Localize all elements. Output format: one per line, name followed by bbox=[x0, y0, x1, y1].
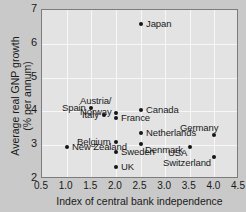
data-point-label: Netherlands bbox=[146, 128, 196, 138]
x-axis-tick-label: 1.5 bbox=[77, 180, 103, 191]
data-point bbox=[188, 145, 192, 149]
y-axis-title-line2: (% per annum) bbox=[21, 6, 33, 186]
data-point-label: Japan bbox=[146, 19, 171, 29]
data-point bbox=[139, 131, 143, 135]
data-point-label: Switzerland bbox=[163, 158, 211, 168]
x-axis-tick-label: 2.0 bbox=[102, 180, 128, 191]
gridline-vertical bbox=[67, 10, 68, 177]
x-axis-tick-label: 1.0 bbox=[53, 180, 79, 191]
data-point-label: Canada bbox=[146, 105, 179, 115]
gridline-vertical bbox=[190, 10, 191, 177]
x-axis-tick-label: 3.0 bbox=[151, 180, 177, 191]
x-axis-tick-label: 4.5 bbox=[225, 180, 246, 191]
x-axis-title: Index of central bank independence bbox=[41, 195, 238, 207]
data-point-label: Sweden bbox=[121, 147, 155, 157]
data-point bbox=[114, 165, 118, 169]
data-point bbox=[139, 22, 143, 26]
data-point bbox=[114, 116, 118, 120]
scatter-plot-figure: JapanSpainAustria/NorwayCanadaItalyFranc… bbox=[0, 0, 246, 212]
y-axis-title: Average real GNP growth (% per annum) bbox=[9, 6, 33, 186]
x-axis-tick-label: 2.5 bbox=[127, 180, 153, 191]
data-point-label: Italy bbox=[82, 110, 99, 120]
gridline-vertical bbox=[214, 10, 215, 177]
x-axis-tick-label: 3.5 bbox=[176, 180, 202, 191]
data-point-label: New Zealand bbox=[72, 142, 127, 152]
gridline-horizontal bbox=[42, 78, 237, 79]
gridline-horizontal bbox=[42, 44, 237, 45]
plot-area: JapanSpainAustria/NorwayCanadaItalyFranc… bbox=[41, 9, 238, 178]
data-point bbox=[65, 145, 69, 149]
data-point-label-line1: Austria/ bbox=[80, 96, 112, 107]
data-point bbox=[114, 111, 118, 115]
data-point bbox=[212, 155, 216, 159]
data-point bbox=[139, 142, 143, 146]
data-point-label: UK bbox=[121, 162, 134, 172]
data-point bbox=[212, 133, 216, 137]
y-axis-title-line1: Average real GNP growth bbox=[9, 36, 21, 155]
data-point-label: France bbox=[121, 113, 150, 123]
x-axis-tick-label: 4.0 bbox=[200, 180, 226, 191]
